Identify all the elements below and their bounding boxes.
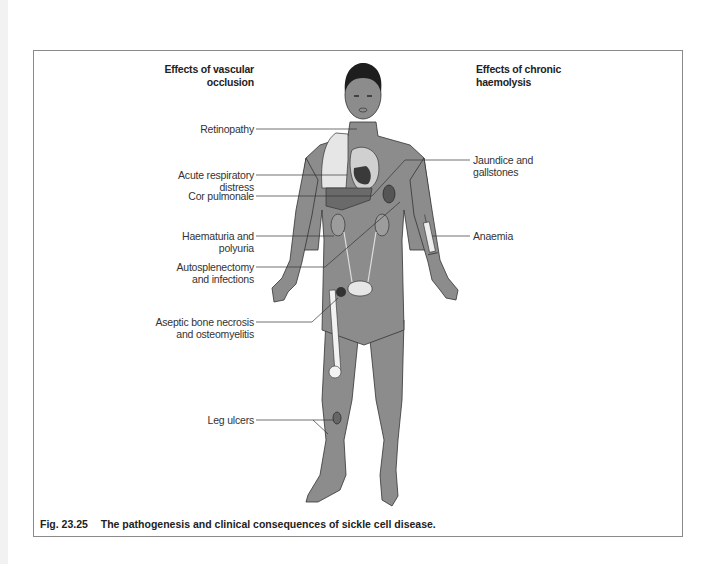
label-line: Leg ulcers (140, 414, 254, 426)
figure-caption: Fig. 23.25 The pathogenesis and clinical… (40, 518, 436, 530)
figure-caption-text: The pathogenesis and clinical consequenc… (101, 518, 436, 530)
figure-number: Fig. 23.25 (40, 518, 88, 530)
label-aseptic-bone-necrosis: Aseptic bone necrosis and osteomyelitis (120, 316, 254, 340)
label-line: Autosplenectomy (140, 261, 254, 273)
bone-necrosis-lesion (336, 287, 346, 297)
label-line: and infections (140, 273, 254, 285)
left-heading-line-1: Effects of vascular (154, 63, 254, 76)
kidney-left (331, 214, 345, 236)
label-jaundice-gallstones: Jaundice and gallstones (473, 154, 593, 178)
leg-ulcer (333, 412, 341, 424)
left-heading-line-2: occlusion (154, 76, 254, 89)
label-line: Anaemia (473, 230, 593, 242)
label-line: Acute respiratory (140, 169, 254, 181)
label-line: Haematuria and (140, 230, 254, 242)
body-diagram (0, 0, 707, 564)
bladder (348, 281, 372, 296)
label-retinopathy: Retinopathy (140, 123, 254, 135)
label-haematuria-polyuria: Haematuria and polyuria (140, 230, 254, 254)
label-autosplenectomy-infections: Autosplenectomy and infections (140, 261, 254, 285)
right-heading-line-1: Effects of chronic (476, 63, 596, 76)
label-line: Aseptic bone necrosis (120, 316, 254, 328)
label-leg-ulcers: Leg ulcers (140, 414, 254, 426)
label-anaemia: Anaemia (473, 230, 593, 242)
label-cor-pulmonale: Cor pulmonale (140, 190, 254, 202)
label-line: gallstones (473, 166, 593, 178)
label-line: Retinopathy (140, 123, 254, 135)
label-line: and osteomyelitis (120, 328, 254, 340)
label-line: Jaundice and (473, 154, 593, 166)
label-line: Cor pulmonale (140, 190, 254, 202)
left-column-heading: Effects of vascular occlusion (154, 63, 254, 89)
right-column-heading: Effects of chronic haemolysis (476, 63, 596, 89)
label-line: polyuria (140, 242, 254, 254)
right-heading-line-2: haemolysis (476, 76, 596, 89)
spleen (383, 185, 395, 203)
lung (322, 133, 348, 188)
